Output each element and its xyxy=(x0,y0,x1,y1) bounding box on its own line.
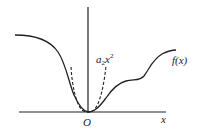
diagram-canvas: a2x2 f(x) O x xyxy=(0,0,199,132)
origin-label: O xyxy=(83,116,91,128)
x-axis-label: x xyxy=(160,113,166,125)
function-curve xyxy=(15,35,176,112)
function-label: f(x) xyxy=(172,54,188,67)
parabola-label: a2x2 xyxy=(96,52,114,67)
